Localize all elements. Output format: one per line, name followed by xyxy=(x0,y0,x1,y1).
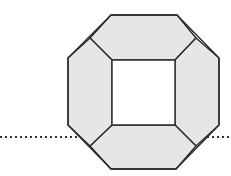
left-panel xyxy=(68,38,112,146)
right-panel xyxy=(175,38,219,146)
inner-square-opening xyxy=(112,60,175,125)
octagon-frame-diagram xyxy=(0,0,231,176)
